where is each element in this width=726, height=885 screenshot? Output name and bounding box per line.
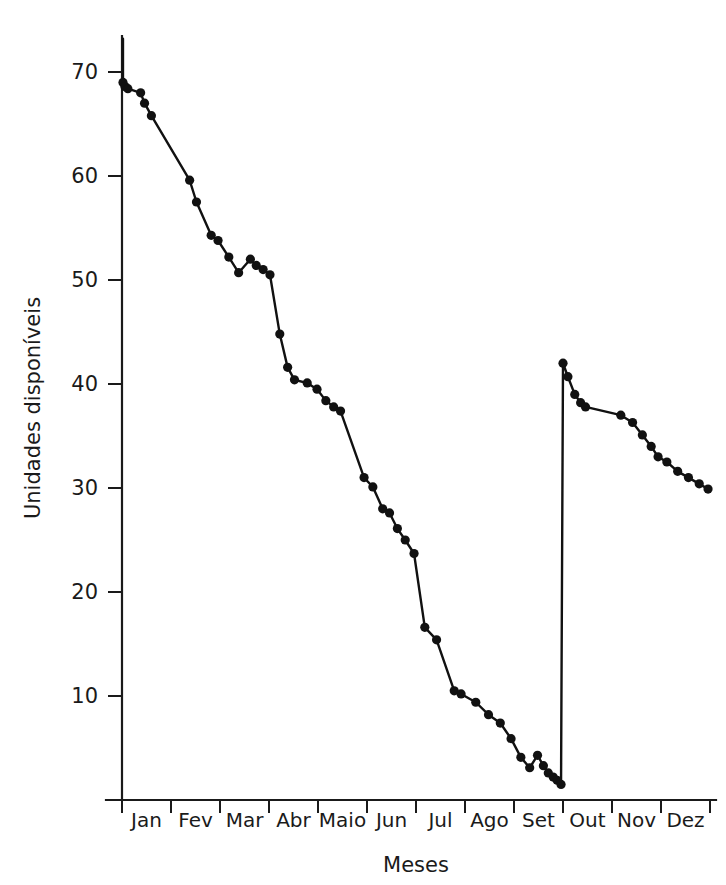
data-point-marker bbox=[224, 253, 233, 262]
data-point-marker bbox=[393, 524, 402, 533]
data-point-marker bbox=[533, 751, 542, 760]
data-point-marker bbox=[628, 418, 637, 427]
data-point-marker bbox=[401, 535, 410, 544]
y-tick-label: 70 bbox=[71, 60, 98, 84]
y-tick-label: 40 bbox=[71, 372, 98, 396]
series-markers bbox=[118, 78, 712, 789]
data-point-marker bbox=[359, 473, 368, 482]
data-point-marker bbox=[506, 734, 515, 743]
data-point-marker bbox=[432, 635, 441, 644]
data-point-marker bbox=[265, 270, 274, 279]
data-point-marker bbox=[556, 780, 565, 789]
x-tick-label: Nov bbox=[617, 808, 656, 832]
x-axis-ticks: JanFevMarAbrMaioJunJulAgoSetOutNovDez bbox=[122, 800, 710, 832]
x-tick-label: Mar bbox=[226, 808, 265, 832]
data-point-marker bbox=[616, 411, 625, 420]
data-point-marker bbox=[525, 763, 534, 772]
data-point-marker bbox=[516, 753, 525, 762]
x-tick-label: Jan bbox=[129, 808, 162, 832]
data-point-marker bbox=[703, 484, 712, 493]
y-axis-title: Unidades disponíveis bbox=[21, 297, 45, 519]
data-point-marker bbox=[684, 473, 693, 482]
data-point-marker bbox=[496, 718, 505, 727]
data-point-marker bbox=[192, 197, 201, 206]
data-point-marker bbox=[147, 111, 156, 120]
x-axis-title: Meses bbox=[383, 853, 449, 877]
data-point-marker bbox=[558, 359, 567, 368]
data-point-marker bbox=[290, 375, 299, 384]
data-point-marker bbox=[140, 99, 149, 108]
data-point-marker bbox=[385, 508, 394, 517]
y-tick-label: 20 bbox=[71, 580, 98, 604]
y-tick-label: 10 bbox=[71, 684, 98, 708]
data-point-marker bbox=[484, 710, 493, 719]
x-tick-label: Jun bbox=[374, 808, 407, 832]
x-tick-label: Dez bbox=[666, 808, 704, 832]
x-tick-label: Ago bbox=[470, 808, 509, 832]
x-tick-label: Out bbox=[569, 808, 605, 832]
data-point-marker bbox=[673, 467, 682, 476]
y-tick-label: 30 bbox=[71, 476, 98, 500]
data-point-marker bbox=[456, 689, 465, 698]
data-point-marker bbox=[136, 88, 145, 97]
data-point-marker bbox=[695, 479, 704, 488]
x-tick-label: Set bbox=[522, 808, 555, 832]
data-point-marker bbox=[653, 452, 662, 461]
data-point-marker bbox=[303, 378, 312, 387]
data-point-marker bbox=[420, 623, 429, 632]
data-point-marker bbox=[336, 406, 345, 415]
data-point-marker bbox=[638, 430, 647, 439]
data-point-marker bbox=[409, 549, 418, 558]
data-point-marker bbox=[581, 402, 590, 411]
data-point-marker bbox=[570, 390, 579, 399]
x-tick-label: Maio bbox=[319, 808, 366, 832]
data-point-marker bbox=[312, 385, 321, 394]
data-point-marker bbox=[283, 363, 292, 372]
x-tick-label: Abr bbox=[276, 808, 311, 832]
data-point-marker bbox=[563, 372, 572, 381]
data-point-marker bbox=[662, 457, 671, 466]
data-point-marker bbox=[368, 482, 377, 491]
data-point-marker bbox=[213, 236, 222, 245]
data-point-marker bbox=[123, 84, 132, 93]
y-tick-label: 50 bbox=[71, 268, 98, 292]
data-point-marker bbox=[275, 329, 284, 338]
chart-figure: 70605040302010JanFevMarAbrMaioJunJulAgoS… bbox=[0, 0, 726, 885]
data-point-marker bbox=[234, 268, 243, 277]
data-point-marker bbox=[321, 396, 330, 405]
x-tick-label: Jul bbox=[426, 808, 452, 832]
y-tick-label: 60 bbox=[71, 164, 98, 188]
x-tick-label: Fev bbox=[178, 808, 213, 832]
data-point-marker bbox=[185, 176, 194, 185]
data-point-marker bbox=[471, 698, 480, 707]
data-point-marker bbox=[647, 442, 656, 451]
y-axis-ticks: 70605040302010 bbox=[71, 60, 122, 708]
chart-canvas: 70605040302010JanFevMarAbrMaioJunJulAgoS… bbox=[0, 0, 726, 885]
